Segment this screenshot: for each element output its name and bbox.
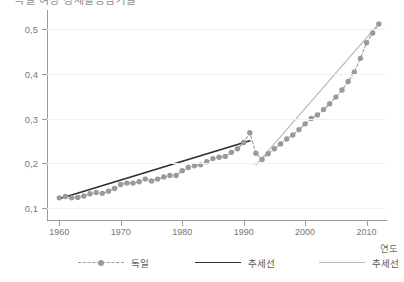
data-point	[87, 191, 92, 196]
legend-swatch-solid-dark	[195, 258, 241, 268]
data-point	[130, 180, 135, 185]
data-point	[180, 168, 185, 173]
legend-label-germany: 독일	[131, 256, 149, 270]
data-point	[155, 176, 160, 181]
chart-title-clipped: 독일 여성 경제활동참가율	[0, 0, 404, 9]
data-point	[106, 188, 111, 193]
chart-legend: 독일 추세선 추세선	[0, 252, 404, 274]
gridline-y	[47, 119, 385, 120]
gridline-y	[47, 29, 385, 30]
y-axis-tick	[42, 119, 47, 120]
data-point	[284, 136, 289, 141]
legend-item-trend-dark: 추세선	[195, 256, 275, 270]
data-point	[100, 191, 105, 196]
data-point	[296, 127, 301, 132]
legend-item-germany: 독일	[78, 256, 149, 270]
x-axis-tick	[244, 221, 245, 226]
x-axis-tick-label: 1980	[172, 227, 192, 237]
data-point	[223, 154, 228, 159]
data-point	[278, 141, 283, 146]
data-point	[173, 173, 178, 178]
data-point	[376, 21, 381, 26]
x-axis-tick	[59, 221, 60, 226]
x-axis-tick	[305, 221, 306, 226]
data-point	[167, 173, 172, 178]
data-point	[247, 130, 252, 135]
y-axis-tick	[42, 74, 47, 75]
x-axis-tick	[182, 221, 183, 226]
data-point	[69, 195, 74, 200]
data-point	[333, 94, 338, 99]
y-axis-tick-label: 0,1	[25, 202, 38, 213]
y-axis-tick	[42, 29, 47, 30]
legend-item-trend-light: 추세선	[319, 256, 399, 270]
data-point	[112, 186, 117, 191]
data-point	[118, 182, 123, 187]
data-point	[272, 146, 277, 151]
data-point	[266, 151, 271, 156]
data-point	[229, 150, 234, 155]
data-point	[235, 146, 240, 151]
data-point	[93, 190, 98, 195]
data-point	[161, 174, 166, 179]
data-series-germany	[59, 24, 379, 198]
x-axis-tick-label: 1970	[111, 227, 131, 237]
y-axis-tick-label: 0,4	[25, 68, 38, 79]
data-point	[302, 121, 307, 126]
legend-swatch-dashed-marker	[78, 258, 124, 268]
gridline-y	[47, 74, 385, 75]
data-point	[241, 140, 246, 145]
x-axis-tick-label: 1990	[234, 227, 254, 237]
trendline-light	[256, 24, 379, 165]
page-title: 독일 여성 경제활동참가율	[14, 0, 137, 7]
data-point	[339, 87, 344, 92]
data-point	[290, 132, 295, 137]
y-axis-tick	[42, 208, 47, 209]
data-point	[321, 107, 326, 112]
data-point	[124, 180, 129, 185]
x-axis-tick	[367, 221, 368, 226]
x-axis-tick-label: 2010	[357, 227, 377, 237]
data-point	[149, 178, 154, 183]
x-axis-tick	[121, 221, 122, 226]
y-axis-tick	[42, 163, 47, 164]
legend-swatch-solid-light	[319, 258, 365, 268]
data-point	[259, 157, 264, 162]
data-point	[253, 151, 258, 156]
x-axis-tick-label: 2000	[295, 227, 315, 237]
legend-label-trend-dark: 추세선	[248, 256, 275, 270]
data-point	[75, 195, 80, 200]
plot-area: 0,10,20,30,40,5196019701980199020002010	[47, 16, 385, 221]
data-point	[315, 112, 320, 117]
gridline-y	[47, 208, 385, 209]
data-point	[186, 165, 191, 170]
y-axis-tick-label: 0,5	[25, 24, 38, 35]
data-point	[327, 101, 332, 106]
data-point	[63, 194, 68, 199]
y-axis-tick-label: 0,2	[25, 158, 38, 169]
data-point	[136, 179, 141, 184]
chart-root: 독일 여성 경제활동참가율 0,10,20,30,40,519601970198…	[0, 0, 404, 282]
data-point	[370, 30, 375, 35]
trendline-dark	[59, 141, 250, 199]
data-point	[210, 156, 215, 161]
data-point	[216, 155, 221, 160]
data-point	[358, 56, 363, 61]
y-axis-tick-label: 0,3	[25, 113, 38, 124]
gridline-y	[47, 163, 385, 164]
data-point	[81, 193, 86, 198]
x-axis-tick-label: 1960	[49, 227, 69, 237]
data-point	[345, 79, 350, 84]
data-point	[143, 176, 148, 181]
data-point	[364, 40, 369, 45]
data-point	[57, 195, 62, 200]
legend-label-trend-light: 추세선	[372, 256, 399, 270]
